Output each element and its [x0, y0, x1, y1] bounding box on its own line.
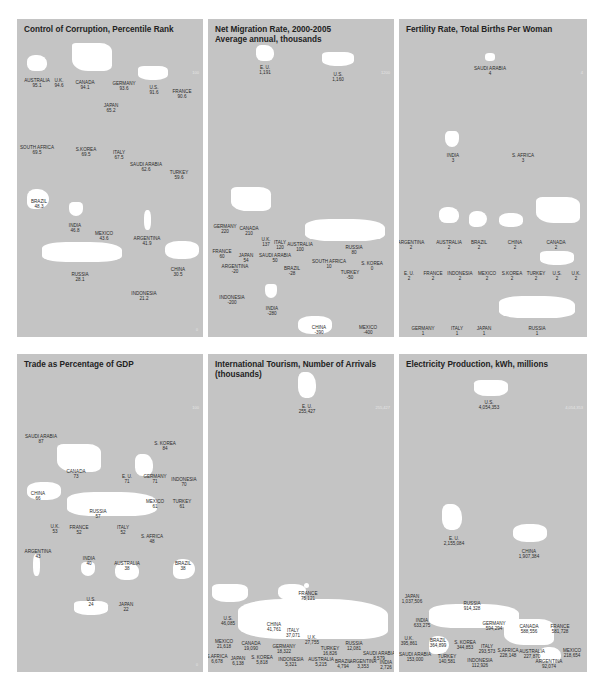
label-argentina: ARGENTINA2	[399, 240, 424, 250]
label-india: INDIA2,726	[380, 660, 392, 670]
label-canada: CANADA19,090	[241, 641, 260, 651]
label-russia: RUSSIA57	[89, 509, 106, 519]
label-china: CHINA66	[31, 491, 45, 501]
map-india	[445, 131, 459, 147]
panel-title: Control of Corruption, Percentile Rank	[24, 25, 174, 35]
label-mexico: MEXICO-400	[359, 325, 377, 335]
map-world-cluster	[238, 599, 388, 639]
corner-label: 0	[196, 663, 198, 667]
label-saudi-arabia: SAUDI ARABIA87	[25, 434, 57, 444]
scale-label: 100	[192, 70, 199, 75]
label-brazil: BRAZIL48.3	[31, 199, 47, 209]
label-s-africa: S.AFRICA228,148	[497, 648, 518, 658]
label-eu: E. U.2,155,084	[444, 536, 464, 546]
label-eu: E. U.71	[122, 474, 132, 484]
label-italy: ITALY67.5	[113, 150, 125, 160]
panel-title: Trade as Percentage of GDP	[24, 360, 134, 370]
corner-label: 0	[196, 328, 198, 332]
scale-label: 4	[581, 70, 583, 75]
label-turkey: TURKEY16,826	[321, 646, 340, 656]
label-australia: AUSTRALIA5,215	[308, 657, 334, 667]
map-us	[474, 380, 508, 396]
label-mexico: MEXICO43.6	[95, 231, 113, 241]
panel-tourism: International Tourism, Number of Arrival…	[208, 354, 394, 672]
label-canada: CANADA588,556	[519, 624, 538, 634]
label-china: CHINA30.5	[171, 267, 185, 277]
label-australia: AUSTRALIA2	[436, 240, 462, 250]
label-uk: U.K.2	[572, 271, 581, 281]
label-canada: CANADA94.1	[75, 80, 94, 90]
label-japan: JAPAN1	[477, 326, 491, 336]
label-indonesia: INDONESIA21.2	[131, 291, 156, 301]
scale-label: 4,054,353	[565, 405, 583, 410]
label-canada: CANADA210	[239, 226, 258, 236]
label-uk: U.K.27,755	[305, 635, 319, 645]
label-skorea: S.KOREA69.5	[76, 147, 96, 157]
map-russia	[42, 242, 122, 262]
label-germany: GERMANY18,322	[272, 644, 295, 654]
label-skorea: S. KOREA5,818	[251, 655, 273, 665]
label-indonesia: INDONESIA2	[447, 271, 472, 281]
panel-net-migration: Net Migration Rate, 2000-2005 Average an…	[208, 19, 394, 337]
map-eu	[442, 504, 462, 530]
label-uk: U.K.53	[51, 524, 60, 534]
label-brazil: BRAZIL364,899	[430, 638, 447, 648]
label-china: CHINA2	[508, 240, 522, 250]
label-indonesia: INDONESIA112,926	[467, 658, 492, 668]
label-australia: AUSTRALIA100	[287, 242, 313, 252]
label-russia: RUSSIA12,081	[345, 641, 362, 651]
map-china	[513, 524, 547, 542]
label-us: U.S.91.6	[150, 85, 159, 95]
panel-corruption: Control of Corruption, Percentile Rank 1…	[17, 19, 203, 337]
label-s-africa: S. AFRICA3	[512, 153, 534, 163]
label-china: CHINA41,761	[267, 622, 281, 632]
label-argentina: ARGENTINA41.9	[134, 236, 161, 246]
label-germany: GERMANY220	[213, 224, 236, 234]
scale-label: 255,427	[376, 405, 390, 410]
map-canada	[231, 187, 271, 211]
map-argentina	[144, 210, 151, 230]
label-s-africa: S.AFRICA6,678	[208, 654, 228, 664]
label-us: U.S.4,054,353	[479, 400, 499, 410]
label-germany: GERMANY1	[411, 326, 434, 336]
map-canada	[536, 197, 580, 223]
label-france: FRANCE2	[424, 271, 443, 281]
label-japan: JAPAN54	[239, 253, 253, 263]
panel-title: Electricity Production, kWh, millions	[406, 360, 548, 370]
label-india: INDIA-280	[266, 306, 278, 316]
label-australia: AUSTRALIA227,870	[519, 649, 545, 659]
label-mexico: MEXICO2	[478, 271, 496, 281]
label-germany: GERMANY93.6	[112, 81, 135, 91]
label-mexico: MEXICO61	[146, 499, 164, 509]
label-china: CHINA1,907,384	[519, 549, 539, 559]
panel-trade: Trade as Percentage of GDP 100 0 SAUDI A…	[17, 354, 203, 672]
label-argentina: ARGENTINA3,353	[350, 659, 377, 669]
label-russia: RUSSIA1	[528, 326, 545, 336]
label-france: FRANCE90.6	[173, 89, 192, 99]
label-japan: JAPAN65.2	[104, 103, 118, 113]
label-france: FRANCE75,121	[299, 591, 318, 601]
label-germany: GERMANY71	[143, 474, 166, 484]
label-argentina: ARGENTINA-20	[222, 264, 249, 274]
label-uk: U.K.137	[262, 237, 271, 247]
panel-fertility: Fertility Rate, Total Births Per Woman 4…	[399, 19, 587, 337]
label-skorea: S.KOREA2	[502, 271, 522, 281]
map-us	[540, 251, 574, 265]
label-turkey: TURKEY140,581	[438, 654, 457, 664]
map-us	[212, 584, 248, 602]
panel-electricity: Electricity Production, kWh, millions 4,…	[399, 354, 587, 672]
map-eu	[135, 454, 153, 476]
label-canada: CANADA73	[66, 469, 85, 479]
label-indonesia: INDONESIA5,321	[278, 657, 303, 667]
label-south-africa: SOUTH AFRICA10	[312, 259, 346, 269]
map-us	[322, 52, 354, 66]
label-uk: U.K.395,861	[401, 636, 418, 646]
label-france: FRANCE581,728	[551, 624, 570, 634]
map-australia	[27, 55, 47, 71]
label-brazil: BRAZIL-28	[284, 266, 300, 276]
label-skorea: S. KOREA0	[361, 261, 383, 271]
map-canada	[57, 444, 101, 472]
label-saudi-arabia: SAUDI ARABIA62.6	[130, 162, 162, 172]
map-russia	[305, 219, 385, 241]
label-saudi-arabia: SAUDI ARABIA4	[474, 66, 506, 76]
